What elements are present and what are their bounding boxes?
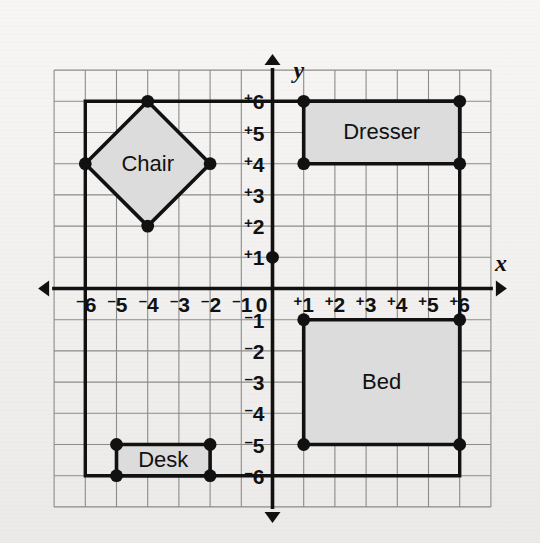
- vertex-dot: [204, 469, 217, 482]
- vertex-dot: [79, 157, 92, 170]
- vertex-dot: [141, 95, 154, 108]
- vertex-dot: [204, 438, 217, 451]
- x-tick-label-+3: +3: [356, 292, 376, 316]
- y-tick-label--3: –3: [244, 370, 264, 394]
- coordinate-plane-svg: ChairDresserBedDesk –6–5–4–3–2–10+1+2+3+…: [0, 0, 540, 543]
- vertex-dot: [297, 157, 310, 170]
- shape-label-bed: Bed: [362, 369, 401, 394]
- y-axis-arrow-up: [265, 54, 281, 65]
- y-tick-label-+2: +2: [244, 214, 264, 238]
- x-tick-label-+5: +5: [418, 292, 439, 316]
- marked-point-dot: [266, 251, 279, 264]
- x-tick-label--4: –4: [139, 292, 159, 316]
- y-tick-label-+4: +4: [244, 152, 265, 176]
- shape-label-desk: Desk: [138, 447, 189, 472]
- x-tick-label-+6: +6: [449, 292, 469, 316]
- axis-name-labels: yx: [291, 57, 507, 275]
- vertex-dot: [297, 95, 310, 108]
- y-tick-label--6: –6: [244, 464, 264, 488]
- x-axis-arrow-right: [496, 281, 507, 297]
- coordinate-plane-figure: ChairDresserBedDesk –6–5–4–3–2–10+1+2+3+…: [0, 0, 540, 543]
- x-tick-label-+1: +1: [293, 292, 314, 316]
- y-axis-arrow-down: [265, 512, 281, 523]
- vertex-dot: [204, 157, 217, 170]
- shape-label-dresser: Dresser: [343, 119, 420, 144]
- y-tick-label-+1: +1: [244, 245, 265, 269]
- vertex-dot: [453, 438, 466, 451]
- y-tick-label--2: –2: [244, 339, 264, 363]
- shape-label-chair: Chair: [121, 151, 174, 176]
- y-tick-label-+3: +3: [244, 183, 264, 207]
- x-tick-label-+2: +2: [325, 292, 345, 316]
- vertex-dot: [453, 95, 466, 108]
- x-tick-label--6: –6: [76, 292, 96, 316]
- x-tick-label-+4: +4: [387, 292, 408, 316]
- y-tick-label--1: –1: [244, 308, 264, 332]
- x-axis-arrow-left: [38, 281, 49, 297]
- vertex-dot: [141, 220, 154, 233]
- vertex-dot: [110, 438, 123, 451]
- y-tick-label-+5: +5: [244, 121, 265, 145]
- vertex-dot: [110, 469, 123, 482]
- vertex-dot: [297, 438, 310, 451]
- y-axis-label: y: [291, 57, 305, 83]
- y-tick-label-+6: +6: [244, 89, 264, 113]
- x-tick-label--3: –3: [170, 292, 190, 316]
- x-tick-label--2: –2: [201, 292, 221, 316]
- y-tick-label--5: –5: [244, 433, 264, 457]
- x-axis-label: x: [494, 250, 507, 276]
- y-tick-label--4: –4: [244, 401, 264, 425]
- x-tick-label--5: –5: [107, 292, 127, 316]
- vertex-dot: [453, 157, 466, 170]
